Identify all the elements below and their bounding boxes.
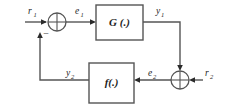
signal-label-y2-sub: 2 xyxy=(71,73,75,80)
signal-label-r2: r 2 xyxy=(205,68,214,80)
arrowhead-e1-into-g-block xyxy=(90,19,96,25)
signal-label-e1-sub: 1 xyxy=(81,11,84,18)
arrowhead-e2-into-f-block xyxy=(134,77,140,83)
summing-junction-output[interactable] xyxy=(171,71,189,89)
signal-label-e2-base: e xyxy=(148,68,152,78)
signal-label-y1-sub: 1 xyxy=(161,11,164,18)
arrowhead-r2-into-output-summer xyxy=(189,77,195,83)
wire-y1-to-output-summer xyxy=(143,22,180,69)
signal-label-r2-sub: 2 xyxy=(210,73,214,80)
signal-label-e2: e 2 xyxy=(148,68,157,80)
block-f-label: f(.) xyxy=(105,76,119,89)
signal-label-r1-sub: 1 xyxy=(34,11,37,18)
signal-label-y1: y 1 xyxy=(155,6,164,18)
minus-sign-label: − xyxy=(43,28,49,39)
arrowhead-y2-into-input-summer xyxy=(37,32,43,38)
arrowhead-r1-into-summer xyxy=(41,19,47,25)
block-diagram-canvas: G (.) f(.) − r 1 e 1 y 1 xyxy=(0,0,228,110)
arrowhead-y1-into-output-summer xyxy=(177,65,183,71)
signal-label-r1-base: r xyxy=(28,6,32,16)
signal-label-r1: r 1 xyxy=(28,6,37,18)
signal-label-r2-base: r xyxy=(205,68,209,78)
signal-label-e2-sub: 2 xyxy=(153,73,157,80)
block-diagram-svg: G (.) f(.) − r 1 e 1 y 1 xyxy=(0,0,228,110)
signal-label-e1: e 1 xyxy=(75,6,84,18)
summing-junction-input[interactable] xyxy=(48,13,66,31)
signal-label-y2: y 2 xyxy=(65,68,75,80)
block-g-label: G (.) xyxy=(109,16,130,29)
wire-y2-to-input-summer xyxy=(40,34,89,80)
signal-label-e1-base: e xyxy=(75,6,79,16)
